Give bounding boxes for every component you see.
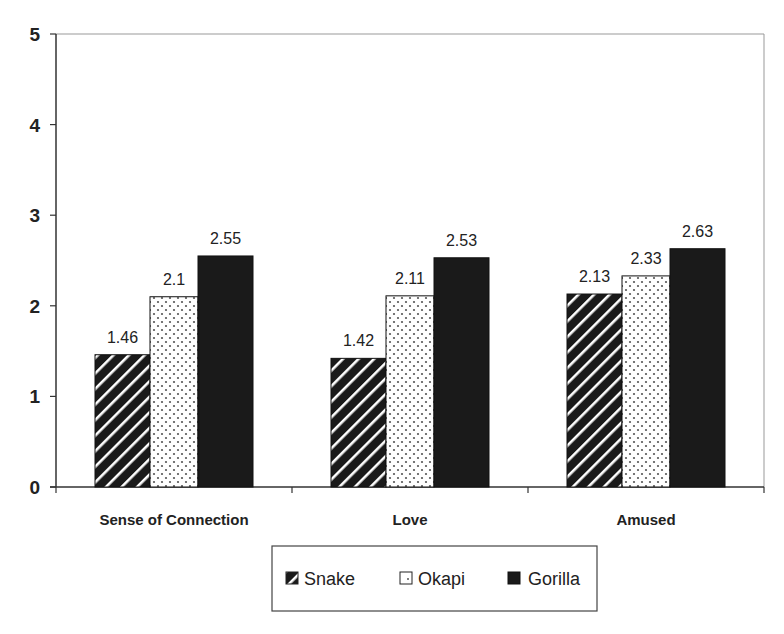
legend: Snake Okapi Gorilla: [272, 546, 597, 611]
bar-snake: [331, 358, 386, 487]
bar-okapi: [150, 297, 198, 487]
chart-canvas: 012345 Sense of ConnectionLoveAmused 1.4…: [0, 0, 784, 634]
y-tick-label: 2: [29, 296, 40, 317]
y-axis: 012345: [29, 24, 56, 498]
value-label: 2.63: [682, 223, 713, 240]
value-label: 2.1: [163, 271, 185, 288]
value-label: 2.13: [579, 268, 610, 285]
bar-okapi: [386, 296, 434, 487]
value-label: 2.33: [630, 250, 661, 267]
x-category-label: Sense of Connection: [99, 511, 248, 528]
black-square-icon: [508, 572, 520, 584]
y-tick-label: 1: [29, 386, 40, 407]
value-label: 1.46: [107, 329, 138, 346]
y-tick-label: 4: [29, 115, 40, 136]
value-label: 2.53: [446, 232, 477, 249]
bar-gorilla: [670, 249, 725, 487]
bar-snake: [95, 355, 150, 487]
y-tick-label: 0: [29, 477, 40, 498]
legend-label: Snake: [304, 569, 355, 589]
x-axis: Sense of ConnectionLoveAmused: [50, 487, 764, 528]
bar-chart: 012345 Sense of ConnectionLoveAmused 1.4…: [0, 0, 784, 634]
bar-okapi: [622, 276, 670, 487]
legend-label: Gorilla: [528, 569, 581, 589]
y-tick-label: 3: [29, 205, 40, 226]
hatched-square-icon: [286, 572, 298, 584]
value-label: 2.11: [395, 270, 425, 287]
y-tick-label: 5: [29, 24, 40, 45]
bar-gorilla: [198, 256, 253, 487]
bar-snake: [567, 294, 622, 487]
x-category-label: Amused: [616, 511, 675, 528]
x-category-label: Love: [392, 511, 427, 528]
value-label: 1.42: [343, 332, 374, 349]
legend-label: Okapi: [418, 569, 465, 589]
value-label: 2.55: [210, 230, 241, 247]
bar-gorilla: [434, 258, 489, 487]
dotted-square-icon: [400, 572, 412, 584]
